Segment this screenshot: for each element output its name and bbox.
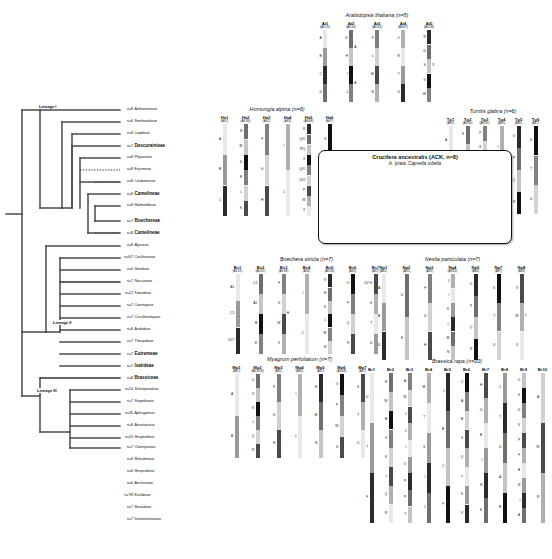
block-label: P [513, 157, 515, 160]
chromosome-column: Tg6(AK7)STU [527, 118, 544, 214]
genomic-block [522, 448, 526, 463]
genomic-block [451, 303, 455, 317]
genomic-block [522, 388, 526, 403]
genomic-block [244, 140, 248, 155]
tribe-name: Crucihimalayeae [135, 315, 161, 319]
block-label: N [240, 130, 242, 133]
genomic-block [497, 274, 501, 302]
panel-title: Myagrum perfoliatum (n=7) [226, 356, 373, 362]
tribe-name: Thlaspideae [135, 339, 154, 343]
genomic-block [307, 135, 311, 145]
block-label: K [252, 407, 254, 410]
genomic-block [265, 186, 269, 216]
block-label: T [530, 168, 532, 171]
chromosome-number: n=7 [122, 518, 133, 522]
block-label: O [470, 283, 473, 286]
block-label: W [302, 199, 305, 202]
block-label: H [287, 312, 289, 315]
block-label: L [324, 319, 326, 322]
taxon-label: n=8Camelineae [122, 231, 160, 236]
chromosome-number: n=8 [122, 193, 133, 197]
ack-box-title: Crucifera ancestralis (ACK, n=8) [319, 154, 511, 160]
genomic-block [465, 392, 469, 410]
block-label: P [347, 302, 349, 305]
genomic-block [323, 66, 327, 84]
chromosome-name: Br3 [400, 368, 419, 372]
tribe-name: Smelowskieae [135, 119, 158, 123]
genomic-block [522, 478, 526, 493]
genomic-block [375, 48, 379, 66]
chromosome-column: Ha4(AK3)IJ [277, 116, 298, 216]
taxon-label: n=7Crucihimalayeae [122, 316, 161, 320]
chromosome-origin: (AK6) [510, 122, 527, 125]
genomic-block [265, 155, 269, 185]
block-label: I [448, 294, 449, 297]
block-label: Q [513, 179, 516, 182]
block-label: A [404, 380, 406, 383]
block-label: G [278, 302, 281, 305]
genomic-block [484, 473, 488, 498]
chromosome-origin: (AK1) [226, 370, 247, 373]
chromosome-number: n=6 [122, 470, 133, 474]
block-label: B [354, 82, 356, 85]
block-label: D [319, 91, 321, 94]
taxon-label: n=10Hesperideae [122, 436, 154, 440]
block-label: U [530, 198, 532, 201]
chromosome-origin: (AK5) [395, 270, 418, 273]
chromosome-number: n=8 [122, 108, 133, 112]
tribe-name: Hesperideae [135, 435, 155, 439]
genomic-block [282, 314, 286, 334]
block-label: Q [470, 326, 473, 329]
genomic-block [307, 196, 311, 206]
block-label: V [516, 287, 518, 290]
block-label: K [240, 207, 242, 210]
genomic-block [223, 186, 227, 216]
genomic-block [534, 126, 538, 155]
genomic-block [256, 430, 260, 444]
chromosome-number: n=7 [122, 506, 133, 510]
genomic-block [465, 373, 469, 391]
chromosome-number: n=7 [122, 304, 133, 308]
block-label: G [424, 315, 427, 318]
genomic-block [427, 74, 431, 88]
chromosome-bar: STU [534, 126, 538, 214]
chromosome-bar: JBCF [446, 373, 450, 523]
taxon-label: n=7Conringieae [122, 304, 153, 308]
chromosome-bar: FGH [428, 274, 432, 360]
chromosome-column: Mp2(AK3/5/8)OVKLQR [247, 366, 268, 458]
block-label: B [378, 315, 380, 318]
genomic-block [351, 334, 355, 354]
block-label: A [461, 400, 463, 403]
block-label: F [278, 282, 280, 285]
panel-title: Turritis glabra (n=6) [442, 108, 544, 114]
genomic-block [517, 148, 521, 170]
genomic-block [328, 328, 332, 341]
chromosome-bar: JIKLMN [451, 274, 455, 360]
block-label: S [493, 287, 495, 290]
chromosome-origin: (AK1) [442, 122, 459, 125]
block-label: T [357, 414, 359, 417]
block-label: T [493, 315, 495, 318]
chromosome-bar: RWBVKLQR [389, 373, 393, 523]
genomic-block [465, 448, 469, 466]
genomic-block [405, 317, 409, 360]
genomic-block [256, 402, 260, 416]
genomic-block [244, 201, 248, 216]
tribe-name: Boechereae [135, 218, 161, 223]
genomic-block [534, 156, 538, 185]
block-label: F [442, 503, 444, 506]
block-label: B [385, 418, 387, 421]
genomic-block [541, 473, 545, 523]
genomic-block [503, 463, 507, 493]
block-label: E [240, 176, 242, 179]
genomic-block [408, 423, 412, 439]
block-label: X [278, 342, 280, 345]
genomic-block [503, 493, 507, 523]
block-label: U [499, 446, 501, 449]
genomic-block [259, 314, 263, 334]
block-label: K [462, 133, 464, 136]
chromosome-number: n=7 [122, 340, 133, 344]
genomic-block [427, 30, 431, 44]
block-label: W [277, 322, 280, 325]
block-label: O [518, 379, 521, 382]
